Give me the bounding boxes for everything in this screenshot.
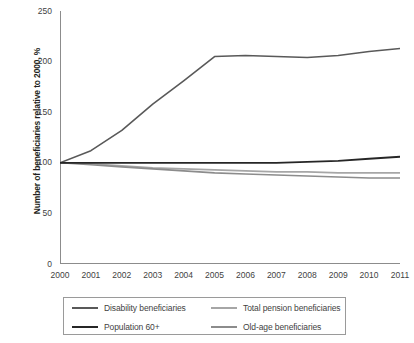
legend-item-total-pension-beneficiaries[interactable]: Total pension beneficiaries (203, 303, 347, 313)
y-tick-label-0: 0 (18, 260, 52, 269)
y-tick-label-4: 200 (18, 57, 52, 66)
legend-label: Total pension beneficiaries (243, 303, 340, 313)
series-line-total-pension-beneficiaries (60, 163, 400, 173)
y-axis-title: Number of beneficiaries relative to 2000… (32, 1, 42, 261)
legend-label: Population 60+ (104, 322, 160, 332)
line-chart-svg (60, 11, 400, 264)
y-tick-label-2: 100 (18, 158, 52, 167)
legend-swatch-icon (211, 307, 237, 309)
legend-item-disability-beneficiaries[interactable]: Disability beneficiaries (64, 303, 203, 313)
y-tick-label-5: 250 (18, 7, 52, 16)
chart-legend: Disability beneficiariesTotal pension be… (63, 297, 346, 335)
legend-swatch-icon (72, 326, 98, 328)
x-tick-label-11: 2011 (380, 271, 414, 280)
legend-label: Old-age beneficiaries (243, 322, 321, 332)
y-tick-label-3: 150 (18, 108, 52, 117)
series-line-disability-beneficiaries (60, 48, 400, 162)
legend-item-old-age-beneficiaries[interactable]: Old-age beneficiaries (203, 322, 347, 332)
legend-label: Disability beneficiaries (104, 303, 186, 313)
y-tick-label-1: 50 (18, 209, 52, 218)
legend-swatch-icon (211, 326, 237, 328)
legend-item-population-60[interactable]: Population 60+ (64, 322, 203, 332)
series-line-population-60 (60, 157, 400, 163)
legend-swatch-icon (72, 307, 98, 309)
plot-area (60, 11, 400, 264)
